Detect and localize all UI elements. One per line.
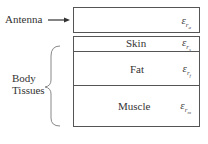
fat-layer: Fat εrf — [74, 51, 199, 86]
muscle-layer: Muscle εrm — [74, 85, 199, 126]
muscle-label: Muscle — [118, 100, 150, 112]
body-tissues-label: Body Tissues — [12, 72, 45, 96]
antenna-box: εra — [73, 7, 200, 33]
body-tissues-line2: Tissues — [12, 84, 45, 96]
body-tissues-line1: Body — [12, 72, 45, 84]
skin-label: Skin — [126, 37, 146, 49]
fat-permittivity: εrf — [183, 62, 191, 79]
fat-label: Fat — [130, 63, 144, 75]
muscle-permittivity: εrm — [180, 99, 191, 116]
body-tissue-stack: Skin εrs Fat εrf Muscle εrm — [73, 36, 200, 127]
brace-icon — [45, 46, 60, 126]
antenna-permittivity: εra — [181, 14, 191, 31]
skin-layer: Skin εrs — [74, 37, 199, 52]
arrow-head-icon — [64, 18, 70, 23]
antenna-label: Antenna — [5, 13, 42, 25]
